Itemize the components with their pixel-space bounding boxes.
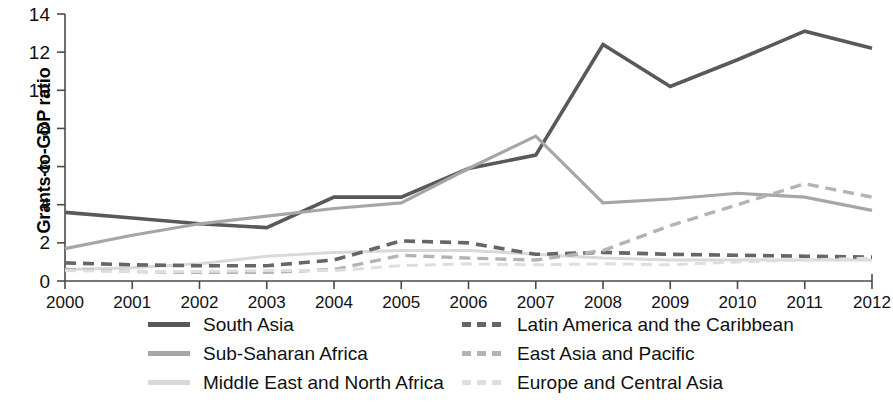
legend-swatch-sub-saharan-africa — [148, 351, 190, 356]
legend-item-middle-east-and-north-africa[interactable]: Middle East and North Africa — [148, 368, 444, 397]
y-tick-label: 2 — [39, 232, 50, 253]
legend-item-south-asia[interactable]: South Asia — [148, 310, 444, 339]
legend-column-right: Latin America and the Caribbean East Asi… — [462, 310, 794, 397]
y-tick-label: 10 — [29, 80, 50, 101]
legend-label-middle-east-and-north-africa: Middle East and North Africa — [203, 373, 444, 392]
legend-label-east-asia-and-pacific: East Asia and Pacific — [517, 344, 694, 363]
x-tick-label: 2008 — [584, 293, 622, 310]
legend-label-latin-america-and-the-caribbean: Latin America and the Caribbean — [517, 315, 794, 334]
data-series-group — [65, 31, 872, 272]
series-line-sub-saharan-africa — [65, 136, 872, 249]
legend-swatch-south-asia — [148, 322, 190, 327]
x-tick-label: 2004 — [315, 293, 353, 310]
chart-legend: South Asia Sub-Saharan Africa Middle Eas… — [0, 310, 893, 406]
x-tick-label: 2009 — [651, 293, 689, 310]
x-tick-label: 2007 — [517, 293, 555, 310]
legend-swatch-latin-america-and-the-caribbean — [462, 322, 504, 327]
x-tick-label: 2012 — [853, 293, 891, 310]
y-tick-label: 4 — [39, 194, 50, 215]
legend-item-latin-america-and-the-caribbean[interactable]: Latin America and the Caribbean — [462, 310, 794, 339]
legend-swatch-europe-and-central-asia — [462, 380, 504, 385]
x-tick-label: 2005 — [382, 293, 420, 310]
x-tick-label: 2002 — [181, 293, 219, 310]
y-axis-ticks: 02468101214 — [29, 4, 65, 292]
y-tick-label: 6 — [39, 156, 50, 177]
y-tick-label: 14 — [29, 4, 51, 25]
x-tick-label: 2010 — [719, 293, 757, 310]
line-chart-plot: 02468101214 2000200120022003200420052006… — [0, 0, 893, 310]
x-tick-label: 2011 — [786, 293, 823, 310]
x-tick-label: 2003 — [248, 293, 286, 310]
legend-column-left: South Asia Sub-Saharan Africa Middle Eas… — [148, 310, 444, 397]
y-tick-label: 12 — [29, 42, 50, 63]
legend-label-south-asia: South Asia — [203, 315, 294, 334]
series-line-south-asia — [65, 31, 872, 227]
legend-label-europe-and-central-asia: Europe and Central Asia — [517, 373, 723, 392]
series-line-middle-east-and-north-africa — [65, 250, 872, 269]
x-axis-ticks: 2000200120022003200420052006200720082009… — [46, 281, 891, 310]
legend-label-sub-saharan-africa: Sub-Saharan Africa — [203, 344, 368, 363]
legend-item-europe-and-central-asia[interactable]: Europe and Central Asia — [462, 368, 794, 397]
y-tick-label: 8 — [39, 118, 50, 139]
legend-item-east-asia-and-pacific[interactable]: East Asia and Pacific — [462, 339, 794, 368]
chart-figure: Grants-to-GDP ratio 02468101214 20002001… — [0, 0, 893, 406]
y-tick-label: 0 — [39, 271, 50, 292]
legend-swatch-middle-east-and-north-africa — [148, 380, 190, 385]
x-tick-label: 2000 — [46, 293, 84, 310]
legend-item-sub-saharan-africa[interactable]: Sub-Saharan Africa — [148, 339, 444, 368]
legend-swatch-east-asia-and-pacific — [462, 351, 504, 356]
x-tick-label: 2001 — [113, 293, 151, 310]
x-tick-label: 2006 — [450, 293, 488, 310]
